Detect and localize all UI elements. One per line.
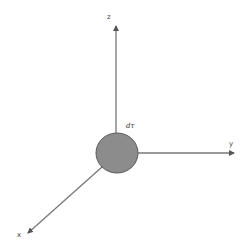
volume-element-label: dτ — [126, 122, 134, 130]
z-axis-label: z — [107, 13, 111, 21]
x-axis-label: x — [17, 231, 21, 239]
y-axis-label: y — [229, 140, 233, 148]
volume-element-circle — [96, 133, 138, 173]
coordinate-diagram: z y x dτ — [0, 0, 246, 252]
x-axis — [28, 167, 102, 233]
